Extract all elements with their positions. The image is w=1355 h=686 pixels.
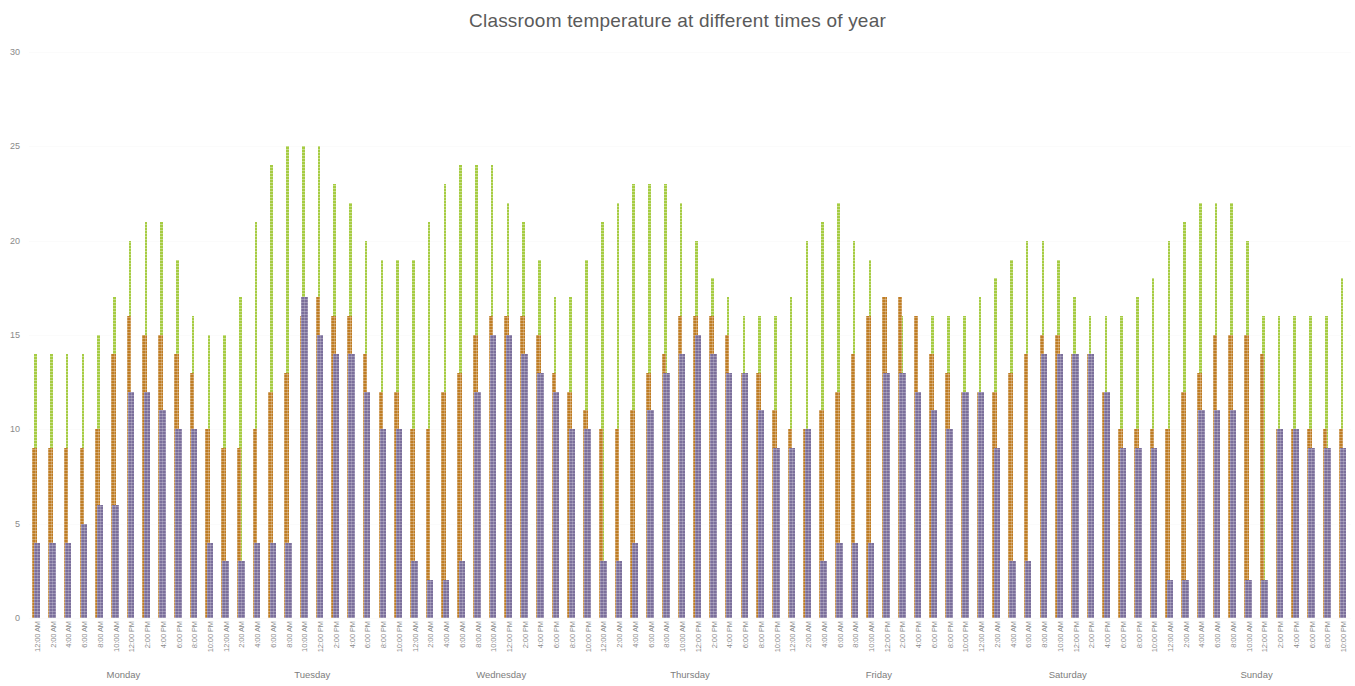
x-axis-tick-label: 4:00 AM <box>253 621 262 648</box>
bar-group <box>1068 52 1084 618</box>
x-axis-tick-label: 6:00 PM <box>930 621 939 648</box>
bar-winter <box>1025 561 1031 618</box>
bar-winter <box>1120 448 1126 618</box>
bar-group <box>674 52 690 618</box>
x-axis-tick-label: 10:00 AM <box>489 621 498 652</box>
x-axis-tick-label: 4:00 PM <box>1292 621 1301 648</box>
bar-group <box>564 52 580 618</box>
bar-group <box>533 52 549 618</box>
x-axis-tick-label: 10:00 AM <box>867 621 876 652</box>
bar-winter <box>333 354 339 618</box>
x-axis-tick-label: 2:00 PM <box>1276 621 1285 648</box>
bar-winter <box>616 561 622 618</box>
bar-winter <box>1277 429 1283 618</box>
bar-winter <box>506 335 512 618</box>
bar-group <box>501 52 517 618</box>
bar-winter <box>836 543 842 618</box>
bar-group <box>171 52 187 618</box>
x-axis-tick-label: 4:00 AM <box>631 621 640 648</box>
x-axis-tick-label: 8:00 AM <box>851 621 860 648</box>
bar-group <box>737 52 753 618</box>
chart-container: Classroom temperature at different times… <box>0 0 1355 686</box>
bar-group <box>847 52 863 618</box>
x-axis-tick-label: 6:00 AM <box>80 621 89 648</box>
x-axis-tick-label: 12:00 AM <box>222 621 231 652</box>
bar-group <box>218 52 234 618</box>
x-axis-tick-label: 6:00 AM <box>836 621 845 648</box>
bar-group <box>895 52 911 618</box>
bar-winter <box>868 543 874 618</box>
bar-winter <box>773 448 779 618</box>
bar-winter <box>1340 448 1346 618</box>
bar-winter <box>81 524 87 618</box>
bar-winter <box>789 448 795 618</box>
x-axis-tick-label: 8:00 PM <box>1135 621 1144 648</box>
bar-group <box>375 52 391 618</box>
bar-winter <box>238 561 244 618</box>
bar-winter <box>1041 354 1047 618</box>
x-axis-tick-label: 4:00 PM <box>536 621 545 648</box>
bar-winter <box>742 373 748 618</box>
bar-spring_autumn <box>1260 354 1265 618</box>
bar-winter <box>1072 354 1078 618</box>
bar-group <box>1225 52 1241 618</box>
bar-winter <box>285 543 291 618</box>
bar-winter <box>65 543 71 618</box>
bar-group <box>1162 52 1178 618</box>
day-group-label: Saturday <box>1049 669 1087 680</box>
bar-group <box>76 52 92 618</box>
x-axis-tick-label: 12:00 PM <box>1260 621 1269 652</box>
bar-group <box>1288 52 1304 618</box>
bar-group <box>1178 52 1194 618</box>
bar-winter <box>820 561 826 618</box>
bar-winter <box>1088 354 1094 618</box>
x-axis-tick-label: 6:00 AM <box>1024 621 1033 648</box>
bar-group <box>800 52 816 618</box>
x-axis-tick-label: 10:00 AM <box>1056 621 1065 652</box>
x-axis-tick-label: 4:00 AM <box>64 621 73 648</box>
y-axis-tick-label: 15 <box>10 330 20 340</box>
x-axis-tick-label: 12:00 AM <box>599 621 608 652</box>
bars-layer <box>29 52 1351 618</box>
x-axis-tick-label: 10:00 AM <box>678 621 687 652</box>
bar-group <box>360 52 376 618</box>
bar-winter <box>758 410 764 618</box>
bar-winter <box>1293 429 1299 618</box>
x-axis-tick-label: 12:00 AM <box>788 621 797 652</box>
bar-group <box>438 52 454 618</box>
x-axis-tick-label: 2:00 AM <box>49 621 58 648</box>
bar-winter <box>553 392 559 618</box>
bar-winter <box>1214 410 1220 618</box>
bar-winter <box>490 335 496 618</box>
bar-winter <box>883 373 889 618</box>
bar-group <box>344 52 360 618</box>
bar-group <box>1131 52 1147 618</box>
x-axis-tick-label: 12:00 AM <box>1166 621 1175 652</box>
x-axis-tick-label: 8:00 AM <box>1040 621 1049 648</box>
bar-group <box>548 52 564 618</box>
bar-group <box>234 52 250 618</box>
day-group-label: Monday <box>107 669 141 680</box>
x-axis-tick-label: 8:00 PM <box>568 621 577 648</box>
x-axis-tick-label: 4:00 PM <box>914 621 923 648</box>
bar-group <box>1099 52 1115 618</box>
bar-winter <box>459 561 465 618</box>
bar-group <box>879 52 895 618</box>
bar-winter <box>632 543 638 618</box>
bar-winter <box>978 392 984 618</box>
bar-group <box>690 52 706 618</box>
bar-winter <box>128 392 134 618</box>
bar-winter <box>1104 392 1110 618</box>
bar-group <box>407 52 423 618</box>
y-axis-tick-label: 10 <box>10 424 20 434</box>
x-axis-tick-label: 12:00 AM <box>411 621 420 652</box>
x-axis-tick-label: 4:00 PM <box>725 621 734 648</box>
y-axis-tick-label: 0 <box>15 613 20 623</box>
bar-group <box>1209 52 1225 618</box>
bar-winter <box>301 297 307 618</box>
x-axis: 12:00 AM2:00 AM4:00 AM6:00 AM8:00 AM10:0… <box>29 619 1351 667</box>
bar-winter <box>710 354 716 618</box>
bar-group <box>1257 52 1273 618</box>
x-axis-tick-label: 6:00 PM <box>552 621 561 648</box>
x-axis-tick-label: 10:00 PM <box>584 621 593 652</box>
